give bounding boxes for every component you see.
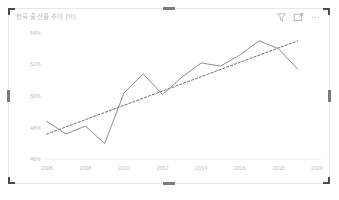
x-axis-tick-label: 2016 xyxy=(234,165,246,171)
plot-area: 54%52%50%48%46% 200620082010201220142016… xyxy=(9,25,329,183)
selection-handle-bottom-left[interactable] xyxy=(8,177,15,184)
selection-handle-bottom-center[interactable] xyxy=(162,181,176,186)
visual-title: 한국 출산율 추이 (%) xyxy=(16,12,76,21)
x-axis-tick-label: 2020 xyxy=(311,165,323,171)
chart-visual-container[interactable]: 한국 출산율 추이 (%) 54%52%50%48%46% xyxy=(8,8,330,184)
x-axis-tick-label: 2012 xyxy=(157,165,169,171)
more-options-icon[interactable] xyxy=(310,12,321,23)
y-axis-tick-label: 46% xyxy=(30,156,41,162)
filter-icon[interactable] xyxy=(276,12,287,23)
visual-header-icons xyxy=(276,12,323,23)
y-axis-tick-label: 50% xyxy=(30,93,41,99)
y-axis-tick-label: 48% xyxy=(30,125,41,131)
focus-mode-icon[interactable] xyxy=(293,12,304,23)
selection-handle-top-left[interactable] xyxy=(8,8,15,15)
x-axis-tick-label: 2014 xyxy=(195,165,207,171)
selection-handle-top-center[interactable] xyxy=(162,6,176,11)
y-axis-tick-labels: 54%52%50%48%46% xyxy=(30,30,41,162)
x-axis-tick-label: 2018 xyxy=(273,165,285,171)
x-axis-tick-label: 2006 xyxy=(41,165,53,171)
selection-handle-bottom-right[interactable] xyxy=(323,177,330,184)
selection-handle-middle-left[interactable] xyxy=(6,89,11,103)
y-axis-tick-label: 52% xyxy=(30,61,41,67)
selection-handle-top-right[interactable] xyxy=(323,8,330,15)
trend-line-path xyxy=(47,41,298,134)
more-options-dots xyxy=(312,17,320,19)
x-axis-tick-labels: 20062008201020122014201620182020 xyxy=(41,165,323,171)
selection-handle-middle-right[interactable] xyxy=(327,89,332,103)
series-line-path xyxy=(47,41,298,144)
line-chart-svg[interactable]: 54%52%50%48%46% 200620082010201220142016… xyxy=(9,25,329,183)
x-axis-tick-label: 2008 xyxy=(79,165,91,171)
y-axis-tick-label: 54% xyxy=(30,30,41,36)
x-axis-tick-label: 2010 xyxy=(118,165,130,171)
